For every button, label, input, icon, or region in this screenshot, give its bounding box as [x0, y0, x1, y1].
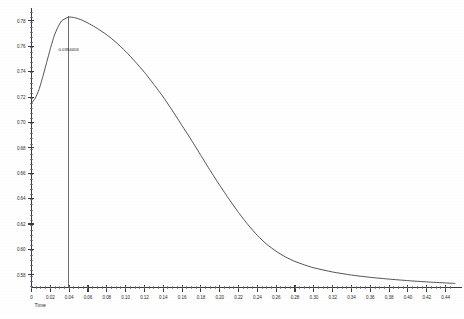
y-tick-label: 0.74 [17, 69, 26, 74]
peak-value-label: 0.0394403 [58, 47, 79, 52]
y-tick-label: 0.62 [17, 222, 26, 227]
x-tick-label: 0.02 [46, 295, 55, 300]
x-tick-label: 0.28 [291, 295, 300, 300]
y-tick-label: 0.68 [17, 146, 26, 151]
x-tick-label: 0.20 [215, 295, 224, 300]
x-tick-label: 0.30 [310, 295, 319, 300]
x-tick-label: 0.32 [328, 295, 337, 300]
x-tick-label: 0.34 [347, 295, 356, 300]
x-tick-label: 0.26 [272, 295, 281, 300]
y-tick-label: 0.60 [17, 247, 26, 252]
x-tick-label: 0 [30, 295, 33, 300]
y-tick-label: 0.58 [17, 273, 26, 278]
x-tick-label: 0.18 [197, 295, 206, 300]
x-tick-label: 0.08 [103, 295, 112, 300]
tick-label-group: 0.780.760.740.720.700.680.660.640.620.60… [17, 19, 450, 308]
y-tick-label: 0.78 [17, 19, 26, 24]
data-curve [32, 17, 456, 283]
data-series-group [32, 17, 456, 283]
x-tick-label: 0.14 [159, 295, 168, 300]
y-tick-label: 0.72 [17, 95, 26, 100]
x-tick-label: 0.38 [385, 295, 394, 300]
x-tick-label: 0.16 [178, 295, 187, 300]
y-tick-label: 0.70 [17, 120, 26, 125]
chart-container: 0.0394403 0.780.760.740.720.700.680.660.… [0, 0, 464, 319]
x-tick-label: 0.44 [441, 295, 450, 300]
x-tick-label: 0.04 [65, 295, 74, 300]
annotation-group: 0.0394403 [58, 16, 79, 287]
axes-group [28, 8, 463, 292]
x-tick-label: 0.22 [234, 295, 243, 300]
x-tick-label: 0.40 [404, 295, 413, 300]
y-tick-label: 0.76 [17, 44, 26, 49]
x-axis-title: Time [35, 302, 46, 308]
x-tick-label: 0.10 [121, 295, 130, 300]
x-tick-label: 0.36 [366, 295, 375, 300]
x-tick-label: 0.42 [422, 295, 431, 300]
x-tick-label: 0.06 [84, 295, 93, 300]
y-tick-label: 0.64 [17, 196, 26, 201]
x-tick-label: 0.24 [253, 295, 262, 300]
y-tick-label: 0.66 [17, 171, 26, 176]
x-tick-label: 0.12 [140, 295, 149, 300]
line-chart: 0.0394403 0.780.760.740.720.700.680.660.… [0, 0, 464, 319]
